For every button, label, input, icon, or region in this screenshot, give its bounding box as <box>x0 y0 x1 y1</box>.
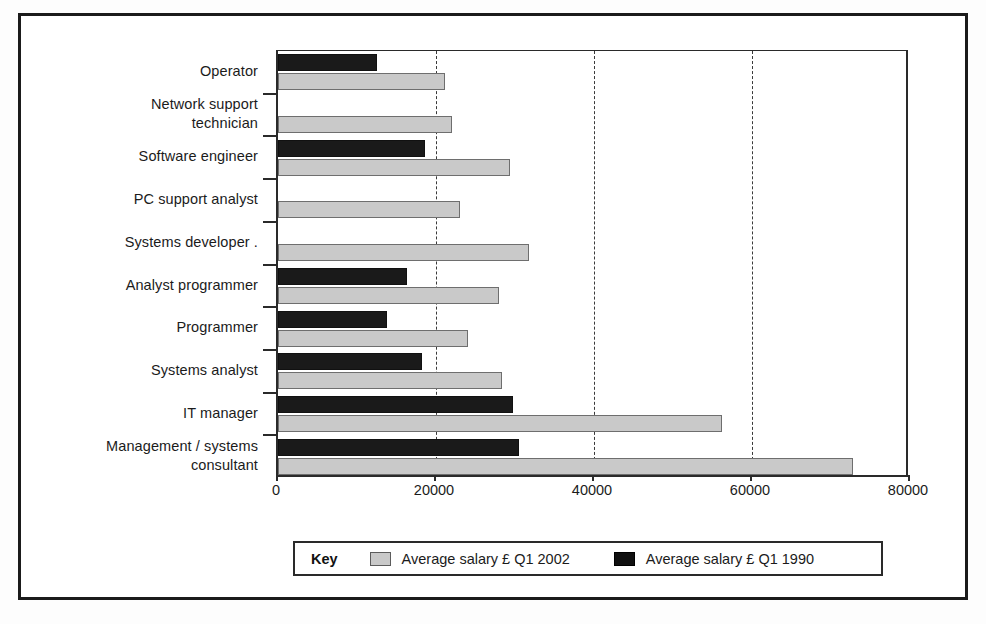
bar-2002 <box>278 330 468 347</box>
category-label: Network supporttechnician <box>151 93 267 136</box>
category-label: Systems analyst <box>151 349 267 392</box>
category-label-line: Programmer <box>176 318 258 337</box>
bar-1990 <box>278 396 513 413</box>
legend-swatch-icon-2002 <box>370 552 391 566</box>
category-label: Operator <box>200 50 267 93</box>
bar-2002 <box>278 116 452 133</box>
category-label: Analyst programmer <box>126 264 267 307</box>
category-tick <box>263 221 276 223</box>
bar-1990 <box>278 268 407 285</box>
value-tick-mark <box>908 475 910 481</box>
category-tick <box>263 349 276 351</box>
category-tick <box>263 135 276 137</box>
legend-box: Key Average salary £ Q1 2002 Average sal… <box>293 541 883 576</box>
category-tick <box>263 178 276 180</box>
category-tick <box>263 392 276 394</box>
bar-group <box>278 350 906 393</box>
category-label-line: Systems developer . <box>125 233 258 252</box>
category-label: Systems developer . <box>125 221 267 264</box>
category-label-line: IT manager <box>183 404 258 423</box>
bar-group <box>278 307 906 350</box>
category-tick <box>263 306 276 308</box>
value-tick-mark <box>434 475 436 481</box>
category-label: Management / systemsconsultant <box>106 434 267 477</box>
value-tick-mark <box>592 475 594 481</box>
category-axis-labels: OperatorNetwork supporttechnicianSoftwar… <box>21 50 267 477</box>
bar-group <box>278 265 906 308</box>
value-tick-mark <box>750 475 752 481</box>
category-label-line: PC support analyst <box>134 190 258 209</box>
category-label: PC support analyst <box>134 178 267 221</box>
value-tick-label: 80000 <box>888 482 928 498</box>
category-label-line: Software engineer <box>139 147 258 166</box>
bar-2002 <box>278 415 722 432</box>
bar-2002 <box>278 372 502 389</box>
value-tick-label: 20000 <box>414 482 454 498</box>
bar-group <box>278 51 906 94</box>
chart-area: OperatorNetwork supporttechnicianSoftwar… <box>21 16 971 603</box>
category-tick <box>263 93 276 95</box>
bar-1990 <box>278 140 425 157</box>
category-label-line: Analyst programmer <box>126 276 258 295</box>
bar-group <box>278 136 906 179</box>
category-label: IT manager <box>183 392 267 435</box>
bar-2002 <box>278 287 499 304</box>
bar-1990 <box>278 353 422 370</box>
category-label-line: Operator <box>200 62 258 81</box>
category-label-line: consultant <box>191 456 258 475</box>
bar-group <box>278 393 906 436</box>
category-label-line: Systems analyst <box>151 361 258 380</box>
category-label-line: Network support <box>151 95 258 114</box>
category-label: Software engineer <box>139 135 267 178</box>
legend-swatch-icon-1990 <box>614 552 635 566</box>
chart-page: OperatorNetwork supporttechnicianSoftwar… <box>0 0 986 624</box>
bar-group <box>278 94 906 137</box>
category-tick <box>263 264 276 266</box>
legend-entry-2002: Average salary £ Q1 2002 <box>370 551 570 567</box>
value-tick-label: 40000 <box>572 482 612 498</box>
value-tick-label: 0 <box>272 482 280 498</box>
legend-title: Key <box>311 551 338 567</box>
bar-group <box>278 222 906 265</box>
bar-1990 <box>278 311 387 328</box>
bar-1990 <box>278 439 519 456</box>
bar-2002 <box>278 458 853 475</box>
bar-2002 <box>278 244 529 261</box>
bar-2002 <box>278 159 510 176</box>
figure-frame: OperatorNetwork supporttechnicianSoftwar… <box>18 13 968 600</box>
category-label-line: technician <box>192 114 258 133</box>
bar-2002 <box>278 201 460 218</box>
value-tick-label: 60000 <box>730 482 770 498</box>
category-label: Programmer <box>176 306 267 349</box>
value-axis-labels: 020000400006000080000 <box>276 482 908 508</box>
bar-group <box>278 179 906 222</box>
bar-group <box>278 435 906 478</box>
legend-label-2002: Average salary £ Q1 2002 <box>402 551 570 567</box>
category-tick <box>263 434 276 436</box>
value-tick-mark <box>276 475 278 481</box>
legend-entry-1990: Average salary £ Q1 1990 <box>614 551 814 567</box>
bar-1990 <box>278 54 377 71</box>
bar-2002 <box>278 73 445 90</box>
plot-area <box>276 50 908 477</box>
category-label-line: Management / systems <box>106 437 258 456</box>
legend-label-1990: Average salary £ Q1 1990 <box>646 551 814 567</box>
